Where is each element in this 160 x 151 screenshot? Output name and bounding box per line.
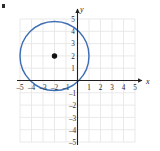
x-tick-label: 3 bbox=[110, 84, 114, 92]
y-tick-label: 2 bbox=[71, 53, 75, 61]
y-tick-label: 5 bbox=[71, 16, 75, 24]
coordinate-plane-svg: x y –5 –4 –3 –2 –1 1 2 3 4 5 5 4 3 2 1 –… bbox=[0, 0, 160, 151]
y-tick-label: 4 bbox=[71, 28, 75, 36]
x-tick-label: –4 bbox=[27, 84, 36, 92]
x-tick-label: 2 bbox=[99, 84, 103, 92]
x-tick-label: –5 bbox=[15, 84, 24, 92]
x-tick-label: –3 bbox=[38, 84, 47, 92]
x-tick-label: 1 bbox=[87, 84, 91, 92]
x-tick-label: 5 bbox=[133, 84, 137, 92]
y-tick-label: –5 bbox=[68, 139, 77, 147]
corner-bullet-marker bbox=[2, 4, 5, 8]
y-tick-label: 3 bbox=[71, 40, 75, 48]
x-tick-label: –2 bbox=[50, 84, 59, 92]
x-tick-labels: –5 –4 –3 –2 –1 1 2 3 4 5 bbox=[15, 84, 137, 92]
y-tick-label: 1 bbox=[71, 65, 75, 73]
y-tick-label: –3 bbox=[68, 115, 77, 123]
y-tick-label: –4 bbox=[68, 127, 77, 135]
y-axis-label: y bbox=[79, 5, 84, 14]
x-axis-label: x bbox=[145, 77, 150, 86]
y-tick-label: –2 bbox=[68, 102, 77, 110]
x-tick-label: 4 bbox=[122, 84, 126, 92]
figure-root: x y –5 –4 –3 –2 –1 1 2 3 4 5 5 4 3 2 1 –… bbox=[0, 0, 160, 151]
y-tick-label: –1 bbox=[68, 90, 77, 98]
center-point-marker bbox=[52, 53, 57, 58]
y-tick-labels: 5 4 3 2 1 –1 –2 –3 –4 –5 bbox=[68, 16, 77, 147]
